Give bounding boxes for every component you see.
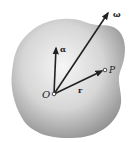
point-p [103, 68, 107, 72]
rigid-body-shape [11, 19, 125, 138]
rigid-body-diagram: ω α P O r [0, 0, 135, 142]
label-o: O [42, 89, 50, 100]
label-alpha: α [60, 44, 66, 54]
label-p: P [108, 65, 116, 75]
origin-point [52, 92, 56, 96]
label-omega: ω [113, 9, 121, 19]
